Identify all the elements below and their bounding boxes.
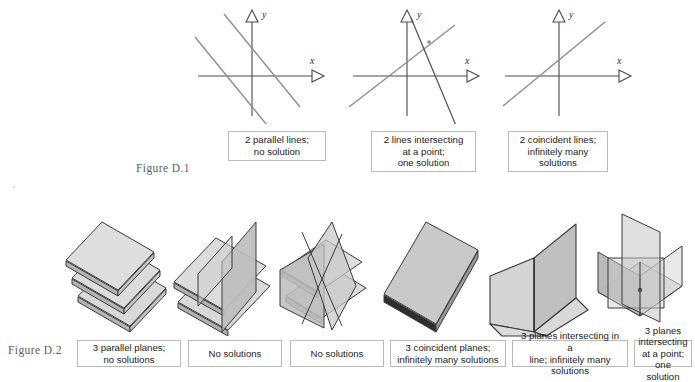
- caption-intersecting-lines: 2 lines intersecting at a point; one sol…: [371, 131, 476, 172]
- diagram-two-parallel-one-crossing: [170, 214, 288, 336]
- caption-parallel-lines: 2 parallel lines; no solution: [228, 131, 326, 161]
- caption-three-parallel-planes: 3 parallel planes; no solutions: [77, 340, 181, 367]
- diagram-two-parallel-one-vertical: [272, 214, 390, 336]
- graph-intersecting-lines: y x: [345, 4, 495, 124]
- caption-no-solutions-b: No solutions: [290, 340, 384, 367]
- svg-text:y: y: [416, 9, 422, 20]
- figure-d2-label: Figure D.2: [8, 344, 62, 356]
- diagram-three-planes-common-point: [586, 212, 695, 338]
- diagram-three-coincident-planes: [378, 220, 490, 336]
- svg-text:y: y: [568, 9, 574, 20]
- graph-coincident-lines: y x: [497, 4, 647, 124]
- caption-three-planes-point: 3 planes intersecting at a point; one so…: [634, 340, 692, 367]
- caption-three-planes-line: 3 planes intersecting in a line; infinit…: [512, 340, 628, 367]
- svg-text:y: y: [261, 9, 267, 20]
- graph-parallel-lines: y x: [190, 4, 340, 124]
- caption-three-coincident-planes: 3 coincident planes; infinitely many sol…: [390, 340, 506, 367]
- figure-d1-label: Figure D.1: [136, 162, 190, 174]
- scan-speck: [13, 186, 15, 188]
- caption-no-solutions-a: No solutions: [188, 340, 282, 367]
- svg-text:x: x: [309, 55, 315, 66]
- diagram-three-planes-common-line: [480, 214, 598, 338]
- svg-text:x: x: [464, 55, 470, 66]
- svg-text:x: x: [616, 55, 622, 66]
- diagram-three-parallel-planes: [58, 216, 183, 336]
- caption-coincident-lines: 2 coincident lines; infinitely many solu…: [508, 131, 608, 172]
